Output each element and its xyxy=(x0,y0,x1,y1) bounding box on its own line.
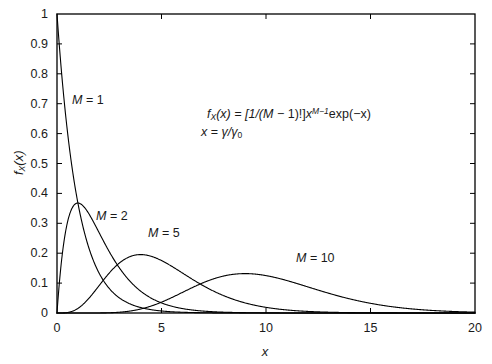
x-tick-label: 5 xyxy=(142,322,182,335)
y-axis-title: fX(x) xyxy=(12,151,26,175)
x-axis-title: x xyxy=(245,345,285,358)
curve-label-m5: M = 5 xyxy=(148,227,180,240)
x-tick-labels: 05101520 xyxy=(0,0,492,364)
curve-label-m2: M = 2 xyxy=(96,210,128,223)
x-tick-label: 15 xyxy=(351,322,391,335)
curve-label-m10: M = 10 xyxy=(296,252,335,265)
equation-line-2: x = γ/γ0 xyxy=(201,126,242,139)
x-tick-label: 20 xyxy=(455,322,492,335)
equation-line-1: fX(x) = [1/(M − 1)!]xM−1exp(−x) xyxy=(207,107,371,121)
x-tick-label: 0 xyxy=(37,322,77,335)
curve-label-m1: M = 1 xyxy=(72,94,104,107)
chart-figure: 00.10.20.30.40.50.60.70.80.91 05101520 x… xyxy=(0,0,492,364)
x-tick-label: 10 xyxy=(246,322,286,335)
